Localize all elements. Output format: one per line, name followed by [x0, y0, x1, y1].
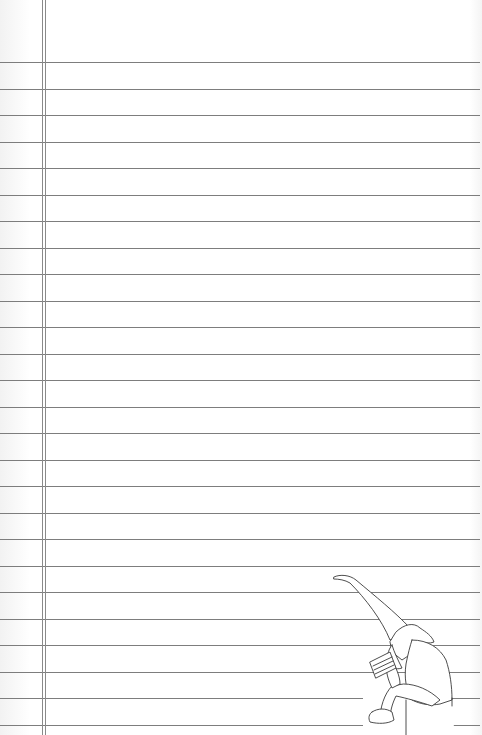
gnome-illustration: [0, 0, 482, 735]
shoe: [369, 709, 394, 723]
lined-paper: [0, 0, 482, 735]
